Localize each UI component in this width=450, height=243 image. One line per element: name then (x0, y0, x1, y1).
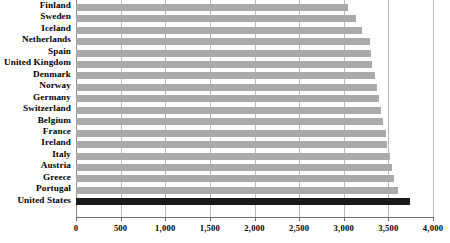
bar-ireland (76, 141, 387, 148)
category-label-finland: Finland (40, 0, 71, 11)
tick-mark-1000 (165, 217, 166, 221)
bar-switzerland (76, 107, 381, 114)
tick-label-1000: 1,000 (155, 223, 175, 233)
bar-chart: FinlandSwedenIcelandNetherlandsSpainUnit… (0, 0, 450, 243)
category-label-france: France (43, 126, 71, 137)
category-label-united-kingdom: United Kingdom (4, 57, 71, 68)
bar-spain (76, 50, 371, 57)
bar-france (76, 130, 386, 137)
category-label-greece: Greece (43, 172, 71, 183)
gridline-3500 (388, 0, 389, 217)
category-label-belgium: Belgium (38, 115, 71, 126)
bar-belgium (76, 118, 383, 125)
bar-germany (76, 95, 379, 102)
bar-denmark (76, 72, 375, 79)
bar-italy (76, 153, 390, 160)
category-axis: FinlandSwedenIcelandNetherlandsSpainUnit… (0, 0, 74, 217)
category-label-germany: Germany (33, 92, 71, 103)
category-label-austria: Austria (41, 160, 71, 171)
bar-norway (76, 84, 377, 91)
tick-label-0: 0 (74, 223, 79, 233)
tick-label-500: 500 (114, 223, 128, 233)
bar-austria (76, 164, 392, 171)
tick-mark-0 (76, 217, 77, 221)
tick-mark-1500 (210, 217, 211, 221)
category-label-portugal: Portugal (36, 183, 71, 194)
bar-united-states (76, 198, 410, 205)
category-label-denmark: Denmark (33, 69, 71, 80)
gridline-4000 (433, 0, 434, 217)
tick-label-2000: 2,000 (244, 223, 264, 233)
category-label-netherlands: Netherlands (22, 34, 71, 45)
tick-label-2500: 2,500 (289, 223, 309, 233)
tick-mark-3000 (344, 217, 345, 221)
category-label-united-states: United States (17, 195, 71, 206)
bar-portugal (76, 187, 398, 194)
bar-greece (76, 175, 394, 182)
category-label-iceland: Iceland (41, 23, 71, 34)
bar-united-kingdom (76, 61, 372, 68)
tick-label-4000: 4,000 (423, 223, 443, 233)
tick-mark-3500 (388, 217, 389, 221)
category-label-sweden: Sweden (40, 11, 71, 22)
bar-iceland (76, 27, 362, 34)
category-label-norway: Norway (39, 80, 71, 91)
tick-mark-4000 (433, 217, 434, 221)
category-label-spain: Spain (48, 46, 71, 57)
tick-mark-2000 (255, 217, 256, 221)
tick-label-3500: 3,500 (378, 223, 398, 233)
bar-sweden (76, 15, 356, 22)
tick-label-3000: 3,000 (334, 223, 354, 233)
category-label-switzerland: Switzerland (23, 103, 71, 114)
tick-mark-500 (121, 217, 122, 221)
category-label-italy: Italy (52, 149, 71, 160)
bar-netherlands (76, 38, 370, 45)
tick-label-1500: 1,500 (200, 223, 220, 233)
bar-finland (76, 4, 348, 11)
category-label-ireland: Ireland (41, 137, 71, 148)
tick-mark-2500 (299, 217, 300, 221)
plot-area (76, 0, 433, 217)
